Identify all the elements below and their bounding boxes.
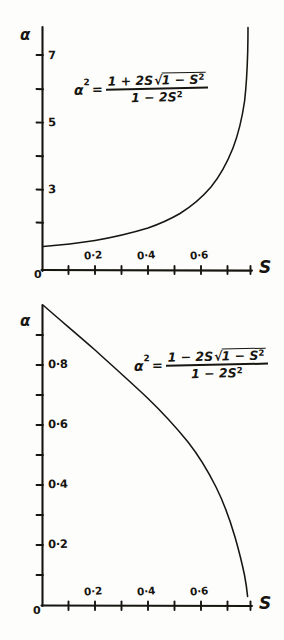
top-numerator-prefix: 1 + 2S bbox=[107, 73, 153, 89]
top-equation-alpha-exponent: 2 bbox=[83, 77, 89, 87]
chart-bottom: α 0·8 0·6 0·4 0·2 0 0·2 0·4 0·6 S α2 = 1… bbox=[0, 300, 284, 640]
top-y-tick-label-7: 7 bbox=[48, 48, 56, 62]
top-x-tick-label-06: 0·6 bbox=[190, 248, 209, 261]
bottom-x-axis bbox=[42, 606, 253, 607]
bottom-numerator-prefix: 1 − 2S bbox=[167, 349, 213, 365]
bottom-x-axis-label: S bbox=[259, 593, 271, 613]
bottom-equation-lhs: α2 bbox=[134, 357, 150, 374]
bottom-x-tick-label-06: 0·6 bbox=[190, 584, 209, 597]
top-radicand-text: 1 − S bbox=[161, 72, 198, 88]
top-x-axis-label: S bbox=[259, 257, 271, 277]
top-equation-numerator: 1 + 2S√1 − S2 bbox=[105, 72, 207, 89]
bottom-y-axis-label: α bbox=[20, 312, 30, 330]
top-denominator-text: 1 − 2S bbox=[131, 89, 177, 105]
bottom-equation-denominator: 1 − 2S2 bbox=[189, 365, 245, 380]
top-curve bbox=[43, 28, 248, 247]
figure-page: α 7 5 3 0 0·2 0·4 0·6 S α2 = 1 + 2S√1 − … bbox=[0, 0, 284, 640]
top-radicand-exponent: 2 bbox=[198, 72, 204, 82]
top-y-tick-label-5: 5 bbox=[48, 115, 56, 129]
top-y-axis-label: α bbox=[20, 26, 30, 44]
top-radicand: 1 − S2 bbox=[161, 72, 205, 87]
bottom-radicand-text: 1 − S bbox=[221, 348, 258, 364]
top-equation-fraction: 1 + 2S√1 − S2 1 − 2S2 bbox=[105, 72, 207, 105]
top-radical: √1 − S2 bbox=[153, 72, 205, 87]
top-equation-alpha: α bbox=[74, 82, 84, 98]
bottom-equation-fraction: 1 − 2S√1 − S2 1 − 2S2 bbox=[165, 348, 267, 381]
top-denominator-exponent: 2 bbox=[177, 89, 183, 99]
bottom-equation-numerator: 1 − 2S√1 − S2 bbox=[165, 348, 267, 365]
bottom-x-tick-label-04: 0·4 bbox=[137, 584, 156, 597]
top-equation-denominator: 1 − 2S2 bbox=[129, 89, 185, 104]
bottom-equation: α2 = 1 − 2S√1 − S2 1 − 2S2 bbox=[134, 348, 268, 382]
bottom-denominator-exponent: 2 bbox=[237, 365, 243, 375]
top-y-tick-label-3: 3 bbox=[48, 182, 56, 196]
top-x-axis bbox=[42, 270, 253, 271]
bottom-radicand-exponent: 2 bbox=[258, 348, 264, 358]
bottom-equation-equals: = bbox=[152, 358, 163, 373]
top-origin-label: 0 bbox=[34, 268, 41, 281]
bottom-denominator-text: 1 − 2S bbox=[191, 365, 237, 381]
bottom-y-tick-label-02: 0·2 bbox=[48, 537, 68, 552]
bottom-y-tick-label-04: 0·4 bbox=[48, 477, 68, 492]
bottom-y-tick-label-08: 0·8 bbox=[48, 357, 68, 372]
top-equation: α2 = 1 + 2S√1 − S2 1 − 2S2 bbox=[74, 72, 208, 106]
bottom-radical: √1 − S2 bbox=[213, 348, 265, 363]
chart-top: α 7 5 3 0 0·2 0·4 0·6 S α2 = 1 + 2S√1 − … bbox=[0, 0, 284, 300]
top-equation-equals: = bbox=[92, 82, 103, 97]
top-x-tick-label-04: 0·4 bbox=[137, 248, 156, 261]
bottom-radicand: 1 − S2 bbox=[221, 348, 265, 363]
bottom-equation-alpha: α bbox=[134, 358, 144, 374]
bottom-equation-alpha-exponent: 2 bbox=[143, 353, 149, 363]
bottom-x-tick-label-02: 0·2 bbox=[84, 584, 103, 597]
top-x-tick-label-02: 0·2 bbox=[84, 248, 103, 261]
bottom-y-tick-label-06: 0·6 bbox=[48, 417, 68, 432]
top-equation-lhs: α2 bbox=[74, 81, 90, 98]
bottom-origin-label: 0 bbox=[33, 604, 40, 617]
